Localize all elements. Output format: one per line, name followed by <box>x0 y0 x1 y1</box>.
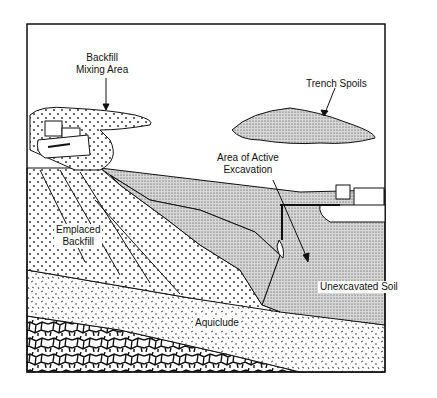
label-line: Emplaced <box>56 224 100 236</box>
trench-spoils-label: Trench Spoils <box>306 78 367 90</box>
label-line: Excavation <box>217 164 279 176</box>
backfill-mixing-area-label: Backfill Mixing Area <box>76 52 128 76</box>
diagram-canvas <box>0 0 437 398</box>
label-line: Backfill <box>76 52 128 64</box>
active-excavation-label: Area of Active Excavation <box>217 152 279 176</box>
label-line: Area of Active <box>217 152 279 164</box>
emplaced-backfill-label: Emplaced Backfill <box>54 224 102 248</box>
aquiclude-label: Aquiclude <box>193 317 241 329</box>
unexcavated-soil-label: Unexcavated Soil <box>318 281 400 293</box>
trench-spoils-pile <box>232 108 375 144</box>
label-line: Mixing Area <box>76 64 128 76</box>
label-line: Backfill <box>56 236 100 248</box>
